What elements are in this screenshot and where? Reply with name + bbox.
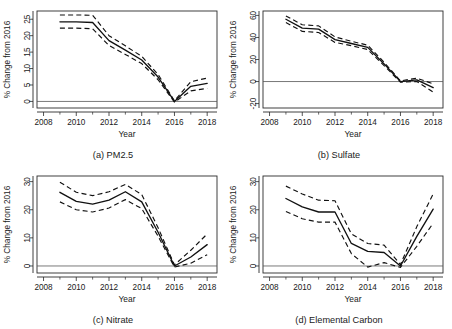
- svg-text:-20: -20: [249, 97, 258, 109]
- svg-text:2008: 2008: [34, 283, 53, 292]
- svg-text:2014: 2014: [359, 283, 378, 292]
- figure-grid: 2008201020122014201620180510152025% Chan…: [0, 0, 452, 329]
- svg-text:(d) Elemental Carbon: (d) Elemental Carbon: [295, 315, 382, 325]
- svg-text:25: 25: [23, 14, 32, 24]
- svg-text:20: 20: [249, 55, 258, 65]
- svg-text:% Change from 2016: % Change from 2016: [3, 185, 12, 263]
- svg-text:% Change from 2016: % Change from 2016: [229, 20, 238, 98]
- svg-text:2014: 2014: [359, 118, 378, 127]
- svg-text:Year: Year: [345, 129, 362, 139]
- svg-text:2008: 2008: [260, 283, 279, 292]
- svg-text:2012: 2012: [100, 118, 119, 127]
- chart-svg-3: 2008201020122014201620180102030% Change …: [226, 165, 452, 329]
- svg-text:Year: Year: [119, 129, 136, 139]
- svg-text:2018: 2018: [424, 283, 443, 292]
- svg-text:2008: 2008: [34, 118, 53, 127]
- svg-text:10: 10: [23, 233, 32, 243]
- svg-text:Year: Year: [119, 294, 136, 304]
- svg-text:10: 10: [23, 64, 32, 74]
- svg-text:2014: 2014: [133, 118, 152, 127]
- chart-svg-2: 2008201020122014201620180102030% Change …: [0, 165, 226, 329]
- svg-text:2018: 2018: [198, 283, 217, 292]
- svg-text:2010: 2010: [67, 118, 86, 127]
- svg-text:2016: 2016: [391, 118, 410, 127]
- svg-text:2010: 2010: [67, 283, 86, 292]
- chart-panel-c: 2008201020122014201620180102030% Change …: [0, 165, 226, 329]
- svg-text:2014: 2014: [133, 283, 152, 292]
- svg-text:(a) PM2.5: (a) PM2.5: [93, 150, 133, 160]
- svg-text:Year: Year: [345, 294, 362, 304]
- chart-panel-d: 2008201020122014201620180102030% Change …: [226, 165, 452, 329]
- svg-text:30: 30: [249, 177, 258, 187]
- svg-text:0: 0: [23, 263, 32, 268]
- svg-text:0: 0: [249, 263, 258, 268]
- svg-text:0: 0: [23, 99, 32, 104]
- svg-text:10: 10: [249, 233, 258, 243]
- svg-text:2012: 2012: [100, 283, 119, 292]
- svg-text:2008: 2008: [260, 118, 279, 127]
- svg-text:2018: 2018: [198, 118, 217, 127]
- svg-text:(b) Sulfate: (b) Sulfate: [318, 150, 360, 160]
- svg-text:2010: 2010: [293, 283, 312, 292]
- chart-panel-a: 2008201020122014201620180510152025% Chan…: [0, 0, 226, 164]
- chart-svg-1: 200820102012201420162018-200204060% Chan…: [226, 0, 452, 164]
- svg-text:% Change from 2016: % Change from 2016: [229, 185, 238, 263]
- svg-text:2016: 2016: [391, 283, 410, 292]
- svg-text:(c) Nitrate: (c) Nitrate: [93, 315, 133, 325]
- svg-text:5: 5: [23, 82, 32, 87]
- svg-text:% Change from 2016: % Change from 2016: [3, 20, 12, 98]
- svg-text:30: 30: [23, 177, 32, 187]
- svg-text:15: 15: [23, 47, 32, 57]
- svg-text:20: 20: [23, 31, 32, 41]
- svg-text:0: 0: [249, 79, 258, 84]
- svg-text:2016: 2016: [165, 118, 184, 127]
- svg-text:60: 60: [249, 10, 258, 20]
- svg-text:20: 20: [23, 205, 32, 215]
- svg-text:20: 20: [249, 205, 258, 215]
- svg-text:2018: 2018: [424, 118, 443, 127]
- svg-text:2016: 2016: [165, 283, 184, 292]
- svg-text:2010: 2010: [293, 118, 312, 127]
- chart-panel-b: 200820102012201420162018-200204060% Chan…: [226, 0, 452, 164]
- svg-text:2012: 2012: [326, 283, 345, 292]
- svg-text:2012: 2012: [326, 118, 345, 127]
- chart-svg-0: 2008201020122014201620180510152025% Chan…: [0, 0, 226, 164]
- svg-text:40: 40: [249, 32, 258, 42]
